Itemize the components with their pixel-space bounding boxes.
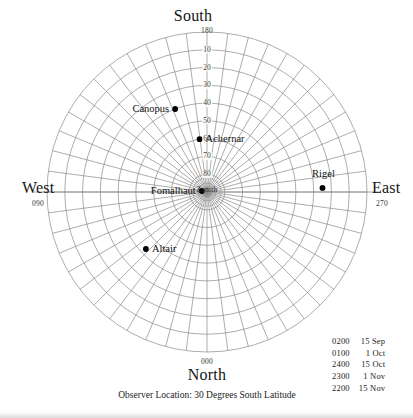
star-label-canopus: Canopus <box>132 104 169 115</box>
legend-time: 0200 <box>332 336 359 348</box>
azimuth-label-west: 090 <box>32 200 44 208</box>
star-label-achernar: Achernar <box>206 134 245 145</box>
azimuth-spoke-172.5 <box>186 33 207 191</box>
azimuth-spoke-75 <box>52 192 206 233</box>
azimuth-spoke-352.5 <box>207 193 228 351</box>
azimuth-spoke-277.5 <box>208 192 366 213</box>
cardinal-label-north: North <box>188 367 226 383</box>
azimuth-spoke-135 <box>94 79 207 192</box>
legend-time: 2200 <box>332 383 359 395</box>
altitude-tick-30: 30 <box>202 82 212 90</box>
legend-time: 2400 <box>332 359 359 371</box>
legend-date: 15 Sep <box>359 336 385 348</box>
azimuth-label-south: 180 <box>201 27 213 35</box>
azimuth-spoke-15 <box>166 193 207 347</box>
azimuth-label-east: 270 <box>376 200 388 208</box>
legend-date: 15 Nov <box>359 383 385 395</box>
legend-time: 2300 <box>332 371 359 383</box>
cardinal-label-west: West <box>22 180 54 196</box>
azimuth-spoke-285 <box>208 192 362 233</box>
legend-row: 240015 Oct <box>332 359 385 371</box>
observer-location-caption: Observer Location: 30 Degrees South Lati… <box>118 390 296 400</box>
altitude-tick-50: 50 <box>202 117 212 125</box>
altitude-tick-70: 70 <box>202 153 212 161</box>
time-date-legend-body: 020015 Sep01001 Oct240015 Oct23001 Nov22… <box>332 336 385 395</box>
azimuth-spoke-187.5 <box>207 33 228 191</box>
altitude-tick-80: 80 <box>202 170 212 178</box>
legend-date: 15 Oct <box>359 359 385 371</box>
star-dot-rigel <box>320 185 326 191</box>
azimuth-spoke-315 <box>208 193 321 306</box>
legend-row: 020015 Sep <box>332 336 385 348</box>
legend-time: 0100 <box>332 348 359 360</box>
star-label-fomalhaut: Fomalhaut <box>151 186 196 197</box>
azimuth-spoke-45 <box>94 193 207 306</box>
legend-row: 01001 Oct <box>332 348 385 360</box>
legend-row: 23001 Nov <box>332 371 385 383</box>
azimuth-spoke-22.5 <box>146 193 207 340</box>
altitude-tick-10: 10 <box>202 46 212 54</box>
azimuth-spoke-157.5 <box>146 44 207 191</box>
altitude-tick-40: 40 <box>202 99 212 107</box>
azimuth-spoke-202.5 <box>207 44 268 191</box>
azimuth-spoke-165 <box>166 37 207 191</box>
altitude-tick-20: 20 <box>202 64 212 72</box>
azimuth-label-north: 000 <box>201 358 213 366</box>
star-dot-canopus <box>172 106 178 112</box>
azimuth-spoke-67.5 <box>59 192 206 253</box>
azimuth-spoke-292.5 <box>208 192 355 253</box>
star-dot-altair <box>143 246 149 252</box>
star-chart: South 180 000 North West 090 East 270 10… <box>0 0 413 418</box>
azimuth-spoke-195 <box>207 37 248 191</box>
zenith-label: Zenith <box>197 185 218 194</box>
azimuth-spoke-7.5 <box>186 193 207 351</box>
legend-row: 220015 Nov <box>332 383 385 395</box>
time-date-legend: 020015 Sep01001 Oct240015 Oct23001 Nov22… <box>332 336 385 395</box>
legend-date: 1 Oct <box>359 348 385 360</box>
azimuth-spoke-255 <box>208 151 362 192</box>
star-label-altair: Altair <box>152 244 177 255</box>
cardinal-label-south: South <box>174 8 212 24</box>
azimuth-spoke-337.5 <box>207 193 268 340</box>
legend-date: 1 Nov <box>359 371 385 383</box>
azimuth-spoke-262.5 <box>208 171 366 192</box>
azimuth-spoke-112.5 <box>59 131 206 192</box>
cardinal-label-east: East <box>372 180 400 196</box>
star-label-rigel: Rigel <box>312 168 335 179</box>
azimuth-spoke-345 <box>207 193 248 347</box>
